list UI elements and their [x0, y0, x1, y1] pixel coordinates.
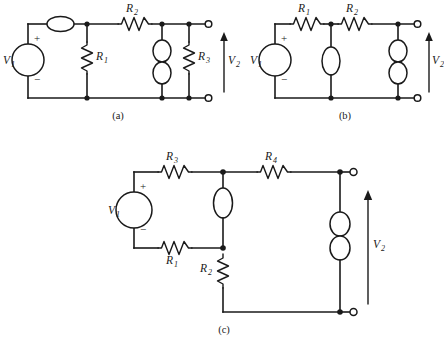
output-terminal-bottom: [350, 309, 357, 316]
source-minus-sign: −: [140, 223, 146, 235]
resistor-r4-c-label-subscript: 4: [273, 156, 277, 165]
source-label-v1-subscript: 1: [11, 60, 15, 69]
resistor-r2-b: [338, 18, 372, 31]
v2-arrow-head-c: [364, 190, 372, 200]
resistor-r3-c-label-subscript: 3: [173, 156, 178, 165]
inductor-horizontal-top-a: [47, 17, 74, 32]
inductor-double-vertical-b-upper: [389, 40, 407, 62]
subfigure-caption-b: (b): [339, 110, 352, 122]
source-plus-sign: +: [34, 32, 40, 44]
resistor-r3-a-label: R: [197, 50, 205, 62]
resistor-r3-a-label-subscript: 3: [205, 56, 210, 65]
junction-dot: [186, 95, 191, 100]
resistor-r3-a: [184, 42, 195, 74]
resistor-r1-c-label: R: [165, 254, 173, 266]
output-label-v2-c-subscript: 2: [381, 244, 385, 253]
output-label-v2-a-subscript: 2: [236, 60, 240, 69]
inductor-double-vertical-c-lower: [330, 236, 350, 260]
resistor-r2-c-label-subscript: 2: [208, 268, 212, 277]
resistor-r3-c-label: R: [165, 150, 173, 162]
v2-arrow-head-b: [425, 32, 433, 41]
output-terminal-bottom: [414, 95, 421, 102]
resistor-r2-a-label: R: [125, 2, 133, 14]
resistor-r3-c: [158, 166, 192, 179]
source-plus-sign: +: [281, 32, 287, 44]
output-label-v2-b-subscript: 2: [440, 60, 444, 69]
resistor-r1-b-label-subscript: 1: [306, 8, 310, 17]
v2-arrow-head-a: [220, 32, 228, 41]
junction-dot: [220, 169, 226, 175]
junction-dot: [328, 95, 333, 100]
resistor-r2-a: [118, 18, 152, 31]
voltage-source-v1: [12, 44, 44, 76]
junction-dot: [395, 21, 400, 26]
output-terminal-top: [205, 21, 212, 28]
source-minus-sign: −: [34, 73, 40, 85]
subfigure-a: + − V 1 R 2 R 1 R 3: [3, 2, 240, 122]
junction-dot: [84, 21, 89, 26]
junction-dot: [186, 21, 191, 26]
inductor-double-vertical-a-upper: [153, 40, 171, 62]
source-minus-sign: −: [281, 73, 287, 85]
source-label-v1-subscript: 1: [258, 60, 262, 69]
resistor-r2-c: [218, 254, 229, 288]
resistor-r1-c: [158, 242, 192, 255]
inductor-double-vertical-c-upper: [330, 212, 350, 236]
junction-dot: [328, 21, 333, 26]
inductor-double-vertical-a-lower: [153, 62, 171, 84]
output-terminal-bottom: [205, 95, 212, 102]
resistor-r1-a-label: R: [95, 50, 103, 62]
voltage-source-v1: [116, 192, 152, 228]
resistor-r1-b-label: R: [297, 2, 305, 14]
voltage-source-v1: [259, 44, 291, 76]
source-label-v1-subscript: 1: [116, 210, 120, 219]
resistor-r2-b-label: R: [345, 2, 353, 14]
resistor-r2-c-label: R: [199, 262, 207, 274]
subfigure-caption-c: (c): [218, 324, 230, 336]
resistor-r1-a: [82, 42, 93, 74]
junction-dot: [395, 95, 400, 100]
resistor-r2-a-label-subscript: 2: [134, 8, 138, 17]
inductor-double-vertical-b-lower: [389, 62, 407, 84]
inductor-single-vertical-b: [322, 47, 340, 75]
circuit-figure: + − V 1 R 2 R 1 R 3: [0, 0, 444, 344]
resistor-r1-a-label-subscript: 1: [104, 56, 108, 65]
resistor-r1-c-label-subscript: 1: [174, 260, 178, 269]
subfigure-b: + − V 1 R 1 R 2 V 2 (b): [250, 2, 444, 122]
subfigure-c: + − V 1 R 3 R 4 R 1 R 2: [108, 150, 385, 336]
subfigure-caption-a: (a): [112, 110, 124, 122]
junction-dot: [220, 245, 226, 251]
junction-dot: [159, 95, 164, 100]
junction-dot: [159, 21, 164, 26]
inductor-single-vertical-c: [214, 188, 233, 218]
resistor-r2-b-label-subscript: 2: [354, 8, 358, 17]
output-terminal-top: [414, 21, 421, 28]
resistor-r4-c: [257, 166, 291, 179]
source-plus-sign: +: [140, 180, 146, 192]
resistor-r4-c-label: R: [264, 150, 272, 162]
output-terminal-top: [350, 169, 357, 176]
junction-dot: [84, 95, 89, 100]
resistor-r1-b: [290, 18, 324, 31]
